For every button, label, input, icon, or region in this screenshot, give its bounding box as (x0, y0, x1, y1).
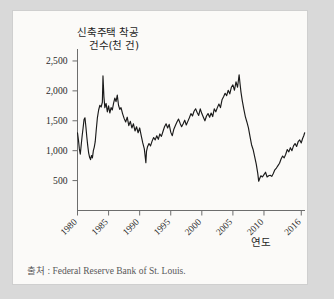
x-axis-tick-labels: 19801985199019952000200520102016 (59, 217, 303, 238)
x-tick-label: 2010 (245, 217, 266, 238)
y-axis-tick-labels: 5001,0001,5002,0002,500 (46, 55, 68, 186)
x-tick-label: 1990 (121, 217, 142, 238)
x-tick-label: 2000 (183, 217, 204, 238)
y-tick-label: 1,000 (46, 145, 68, 156)
y-tick-label: 2,500 (46, 55, 68, 66)
figure-card: 신축주택 착공 건수(천 건) 5001,0001,5002,0002,500 … (12, 10, 308, 285)
x-tick-label: 1985 (90, 217, 111, 238)
x-axis-title: 연도 (251, 236, 271, 249)
x-tick-label: 1995 (152, 217, 173, 238)
y-tick-label: 1,500 (46, 115, 68, 126)
y-tick-label: 2,000 (46, 85, 68, 96)
chart-plot-area: 5001,0001,5002,0002,500 1980198519901995… (13, 11, 309, 259)
y-tick-label: 500 (53, 175, 68, 186)
x-tick-label: 1980 (59, 217, 80, 238)
housing-starts-line-chart: 5001,0001,5002,0002,500 1980198519901995… (13, 11, 309, 259)
housing-starts-series-line (78, 75, 305, 181)
source-note: 출처 : Federal Reserve Bank of St. Louis. (27, 263, 186, 277)
x-tick-label: 2016 (282, 217, 303, 238)
x-tick-label: 2005 (214, 217, 235, 238)
